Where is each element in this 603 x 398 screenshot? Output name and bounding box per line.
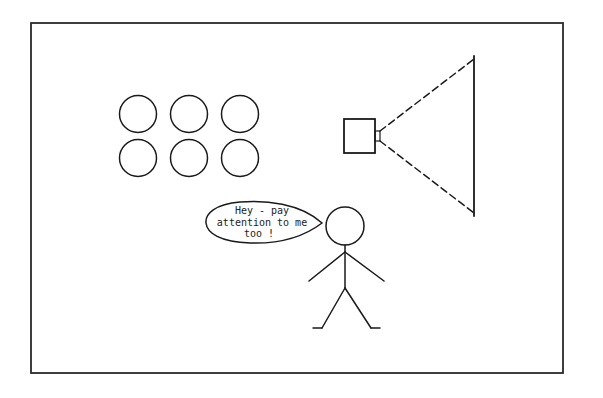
stick-figure-left-leg [322,288,345,328]
seat-circle [222,140,259,177]
audience-seats [120,96,259,177]
speech-bubble-line-3: too ! [244,228,274,239]
beam-upper-dashed-line [380,59,474,131]
stick-figure-right-arm [345,252,384,281]
frame-border [31,23,563,373]
stick-figure-right-leg [345,288,371,328]
projector-beam [380,59,474,213]
beam-lower-dashed-line [380,141,474,213]
speech-bubble-line-1: Hey - pay [235,205,289,216]
seat-circle [171,140,208,177]
seat-circle [171,96,208,133]
seat-circle [222,96,259,133]
seat-circle [120,96,157,133]
speech-bubble: Hey - pay attention to me too ! [206,201,322,243]
stick-figure-head [326,207,364,245]
projector-body [344,119,375,153]
stick-figure-left-arm [309,252,345,281]
speech-bubble-line-2: attention to me [217,217,307,228]
drawing-canvas: Hey - pay attention to me too ! [0,0,603,398]
seat-circle [120,140,157,177]
projector [344,119,380,153]
